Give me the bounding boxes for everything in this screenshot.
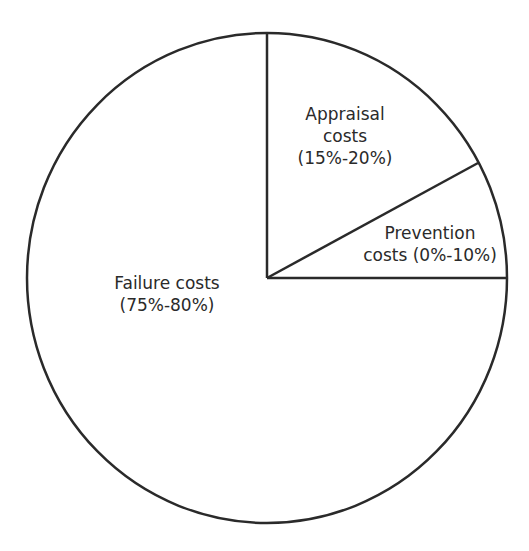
prevention-label-name: Prevention [355,222,505,244]
slice-label-appraisal: Appraisal costs (15%-20%) [290,103,400,169]
slice-label-failure: Failure costs (75%-80%) [82,272,252,316]
failure-label-name: Failure costs [82,272,252,294]
prevention-label-range: costs (0%-10%) [355,244,505,266]
appraisal-label-name: Appraisal [290,103,400,125]
failure-label-range: (75%-80%) [82,294,252,316]
appraisal-label-costs: costs [290,125,400,147]
pie-chart [0,0,529,551]
slice-label-prevention: Prevention costs (0%-10%) [355,222,505,266]
appraisal-label-range: (15%-20%) [290,147,400,169]
